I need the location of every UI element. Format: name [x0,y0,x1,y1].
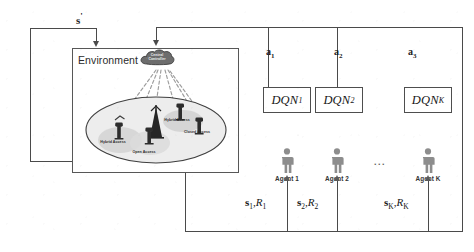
state-reward-bottom-rail [185,231,463,232]
action-label-3: a3 [408,46,417,60]
diagram-canvas: s' Environment Central Controller [0,0,474,252]
right-edge-return-riser [462,27,463,231]
state-reward-label-k: sK,RK [384,196,409,211]
feedback-arrow-head-left [93,41,99,47]
access-label-hybrid-right: Hybrid Access [158,118,196,122]
state-reward-riser-1 [287,181,288,231]
dqn-block-k[interactable]: DQNK [404,87,452,113]
action-label-1: a1 [266,46,275,60]
action-arrow-head-env [153,40,159,46]
state-reward-arrowhead-2 [334,175,340,181]
access-label-hybrid-left: Hybrid Access [95,140,131,144]
access-label-open: Open Access [126,150,162,154]
action-label-2: a2 [334,46,343,60]
action-arrow-stem-env [156,27,157,41]
feedback-loop-bottom-left-segment [30,161,73,162]
state-reward-riser-2 [337,181,338,231]
state-reward-label-1: s1,R1 [245,196,266,211]
state-reward-label-2: s2,R2 [297,196,318,211]
dqn-block-2[interactable]: DQN2 [315,87,363,113]
feedback-loop-top-left-segment [30,28,96,29]
environment-bottom-drop [185,173,186,231]
person-icon [279,148,295,174]
feedback-arrow-stem-left [96,28,97,42]
state-reward-arrowhead-1 [284,175,290,181]
dqn-block-1[interactable]: DQN1 [263,87,311,113]
person-icon [329,148,345,174]
agents-ellipsis: ... [374,157,386,167]
state-reward-arrowhead-k [425,175,431,181]
action-bus-top-rail [156,27,463,28]
next-state-label: s' [76,11,83,26]
access-label-closed: Closed Access [178,130,216,134]
state-reward-riser-k [428,181,429,231]
feedback-loop-left-riser [30,28,31,161]
person-icon [420,148,436,174]
